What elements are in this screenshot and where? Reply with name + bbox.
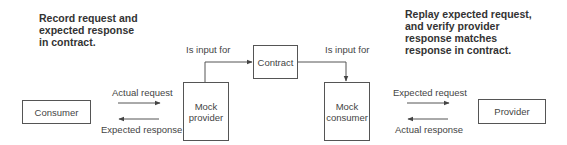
consumer-box: Consumer — [22, 100, 91, 124]
provider-box: Provider — [478, 99, 546, 124]
mock-provider-box: Mock provider — [183, 82, 229, 141]
arrow-mock-provider-to-contract — [205, 62, 252, 82]
label-actual-request: Actual request — [112, 87, 173, 98]
mock-consumer-label: Mock consumer — [325, 101, 369, 123]
arrow-contract-to-mock-consumer — [298, 62, 346, 81]
label-expected-request: Expected request — [393, 87, 467, 98]
label-actual-response: Actual response — [395, 124, 463, 135]
provider-label: Provider — [494, 106, 529, 117]
contract-label: Contract — [258, 57, 294, 68]
consumer-label: Consumer — [35, 107, 79, 118]
label-is-input-for-right: Is input for — [325, 44, 369, 55]
label-expected-response: Expected response — [101, 124, 182, 135]
label-is-input-for-left: Is input for — [186, 44, 230, 55]
mock-provider-label: Mock provider — [184, 101, 228, 123]
mock-consumer-box: Mock consumer — [324, 82, 370, 141]
contract-box: Contract — [253, 45, 298, 79]
